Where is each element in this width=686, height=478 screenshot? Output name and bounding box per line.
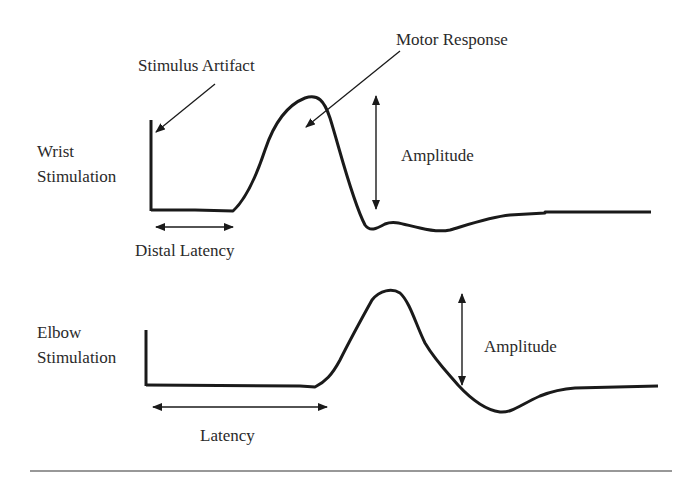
elbow-trace bbox=[146, 290, 658, 412]
stimulus-artifact-label: Stimulus Artifact bbox=[138, 56, 255, 76]
wrist-label-line1: Wrist bbox=[37, 142, 74, 162]
diagram-canvas bbox=[0, 0, 686, 478]
motor-response-arrow bbox=[306, 51, 400, 127]
elbow-label-line1: Elbow bbox=[37, 323, 81, 343]
distal-latency-label: Distal Latency bbox=[135, 241, 235, 261]
latency-label: Latency bbox=[200, 426, 255, 446]
wrist-label-line2: Stimulation bbox=[37, 167, 116, 187]
elbow-label-line2: Stimulation bbox=[37, 348, 116, 368]
amplitude-bottom-label: Amplitude bbox=[484, 337, 557, 357]
stimulus-artifact-arrow bbox=[156, 84, 215, 132]
motor-response-label: Motor Response bbox=[396, 30, 508, 50]
amplitude-top-label: Amplitude bbox=[401, 146, 474, 166]
